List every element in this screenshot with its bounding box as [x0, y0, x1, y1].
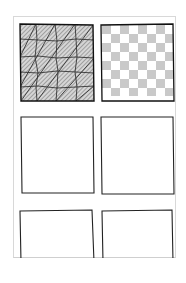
tile-checkerboard-pattern — [101, 24, 174, 101]
tile-empty[interactable] — [20, 210, 94, 262]
tile-empty[interactable] — [101, 117, 174, 194]
tile-empty[interactable] — [102, 210, 173, 262]
tile-empty[interactable] — [21, 117, 94, 193]
tile-triangle-pattern — [18, 22, 96, 104]
tile-grid — [0, 0, 186, 283]
